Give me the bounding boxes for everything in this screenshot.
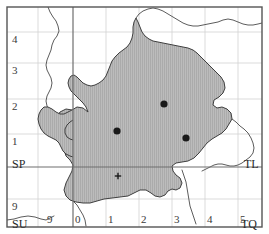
y-axis-tick-3: 3 [12,65,18,76]
y-axis-tick-4: 4 [12,34,18,45]
map-canvas [0,0,269,234]
square-label-sp: SP [12,158,25,170]
x-axis-tick-2: 2 [141,214,147,225]
x-axis-tick-1: 1 [108,214,114,225]
x-axis-tick-3: 3 [174,214,180,225]
site-marker-3 [182,134,189,141]
x-axis-tick-0: 0 [75,214,81,225]
site-marker-1 [113,127,120,134]
square-label-tl: TL [244,158,259,170]
map-figure: 012345943219SPTLSUTQ [0,0,269,234]
site-marker-2 [160,100,167,107]
square-label-su: SU [12,218,27,230]
y-axis-tick-9: 9 [12,201,18,212]
y-axis-tick-2: 2 [12,101,18,112]
y-axis-tick-1: 1 [12,136,18,147]
x-axis-tick-4: 4 [207,214,213,225]
square-label-tq: TQ [241,218,257,230]
x-axis-tick-left-9: 9 [47,214,53,225]
